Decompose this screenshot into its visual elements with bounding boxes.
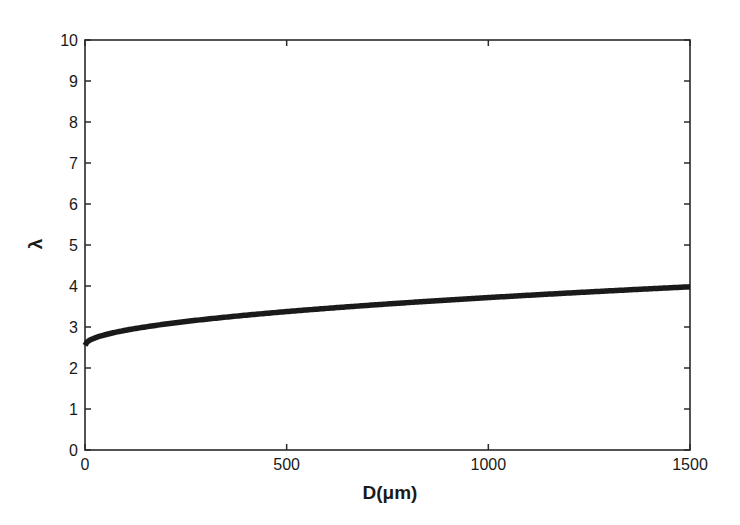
y-tick-label: 0 [69, 442, 78, 459]
x-tick-label: 1000 [471, 456, 507, 473]
line-chart: 012345678910 050010001500 D(μm) λ [0, 0, 740, 525]
series-line [85, 287, 690, 346]
x-axis-ticks: 050010001500 [81, 40, 708, 473]
y-tick-label: 6 [69, 196, 78, 213]
y-axis-label: λ [25, 238, 46, 249]
x-tick-label: 1500 [672, 456, 708, 473]
y-tick-label: 3 [69, 319, 78, 336]
y-tick-label: 5 [69, 237, 78, 254]
data-series [85, 287, 690, 346]
y-tick-label: 4 [69, 278, 78, 295]
y-tick-label: 1 [69, 401, 78, 418]
plot-box [85, 40, 690, 450]
y-tick-label: 10 [60, 32, 78, 49]
plot-frame [85, 40, 690, 450]
y-tick-label: 7 [69, 155, 78, 172]
x-tick-label: 0 [81, 456, 90, 473]
y-tick-label: 9 [69, 73, 78, 90]
x-tick-label: 500 [273, 456, 300, 473]
y-tick-label: 2 [69, 360, 78, 377]
y-tick-label: 8 [69, 114, 78, 131]
x-axis-label: D(μm) [363, 482, 418, 503]
y-axis-ticks: 012345678910 [60, 32, 690, 459]
